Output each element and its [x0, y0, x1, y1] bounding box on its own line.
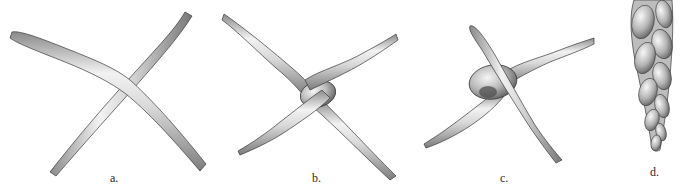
knot-c-inner-shadow: [479, 86, 497, 98]
panel-c-illustration: [424, 26, 594, 163]
panel-a-illustration: [10, 12, 206, 176]
panel-label-a: a.: [110, 172, 118, 184]
strand-b-arm-upper-left: [222, 14, 312, 96]
strand-b-arm-upper-right: [305, 34, 398, 90]
strand-b-arm-lower-left: [238, 90, 330, 155]
illustration-canvas: [0, 0, 681, 192]
strand-a-front: [10, 32, 206, 171]
strand-b-arm-lower-right: [314, 100, 396, 180]
panel-label-b: b.: [312, 172, 321, 184]
panel-label-d: d.: [650, 166, 659, 178]
strand-c-arm-lower-left: [424, 92, 504, 148]
panel-d-illustration: [629, 0, 676, 152]
panel-b-illustration: [222, 14, 398, 180]
strand-c-arm-right: [505, 38, 594, 84]
strand-a-back: [50, 12, 192, 176]
panel-label-c: c.: [500, 172, 508, 184]
